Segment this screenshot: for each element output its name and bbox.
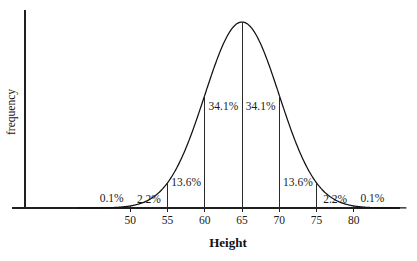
percentage-label-0: 0.1%	[100, 192, 124, 204]
x-tick-label-60: 60	[199, 214, 211, 226]
x-tick-label-70: 70	[274, 214, 286, 226]
x-tick-label-55: 55	[162, 214, 174, 226]
percentage-label-3: 34.1%	[209, 100, 239, 112]
divider-lines-group	[130, 22, 354, 208]
x-axis-title: Height	[209, 235, 247, 250]
x-tick-label-80: 80	[348, 214, 360, 226]
percentage-label-1: 2.2%	[137, 193, 161, 205]
percentage-label-7: 0.1%	[360, 192, 384, 204]
normal-distribution-chart: 50556065707580 0.1%2.2%13.6%34.1%34.1%13…	[0, 0, 417, 261]
x-tick-label-65: 65	[236, 214, 248, 226]
axes-group	[12, 10, 400, 208]
percentage-label-4: 34.1%	[246, 100, 276, 112]
bell-curve-figure: 50556065707580 0.1%2.2%13.6%34.1%34.1%13…	[0, 0, 417, 261]
x-tick-label-75: 75	[311, 214, 323, 226]
x-axis-tick-labels-group: 50556065707580	[125, 214, 360, 226]
x-tick-label-50: 50	[125, 214, 137, 226]
y-axis-title: frequency	[5, 89, 18, 135]
percentage-label-6: 2.2%	[323, 193, 347, 205]
x-axis-ticks-group	[130, 208, 354, 212]
percentage-label-2: 13.6%	[171, 176, 201, 188]
percentage-label-5: 13.6%	[283, 176, 313, 188]
